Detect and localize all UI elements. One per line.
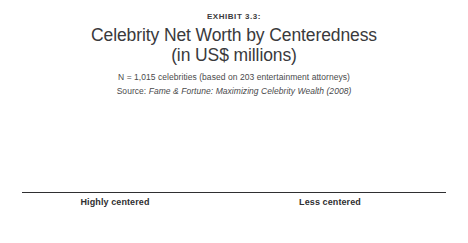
chart-header: EXHIBIT 3.3: Celebrity Net Worth by Cent… — [0, 0, 468, 96]
chart-subtitle: (in US$ millions) — [0, 46, 468, 66]
source-note: Source: Fame & Fortune: Maximizing Celeb… — [0, 86, 468, 96]
source-prefix: Source: — [117, 86, 149, 96]
exhibit-chart: EXHIBIT 3.3: Celebrity Net Worth by Cent… — [0, 0, 468, 243]
chart-title: Celebrity Net Worth by Centeredness — [0, 26, 468, 46]
category-label-less-centered: Less centered — [265, 197, 395, 207]
baseline-axis — [22, 192, 446, 193]
sample-size-note: N = 1,015 celebrities (based on 203 ente… — [0, 72, 468, 82]
source-citation: Fame & Fortune: Maximizing Celebrity Wea… — [149, 86, 352, 96]
category-label-highly-centered: Highly centered — [50, 197, 180, 207]
exhibit-label: EXHIBIT 3.3: — [0, 12, 468, 21]
plot-area: $78.2 Mean $61.7 Median $46.7 Mean — [0, 118, 468, 243]
